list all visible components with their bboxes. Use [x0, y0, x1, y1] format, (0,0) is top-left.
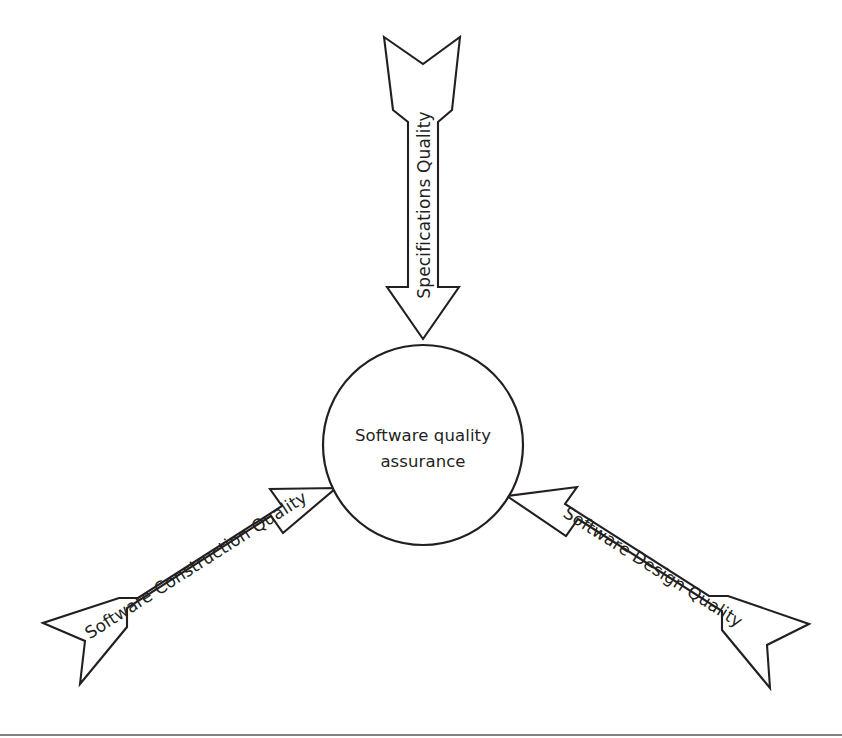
diagram-root: Specifications Quality Software Construc… — [0, 0, 842, 738]
hub-label-line-1: Software quality — [355, 426, 491, 445]
arrow-software-design-quality-label: Software Design Quality — [560, 502, 747, 631]
arrow-specifications-quality: Specifications Quality — [384, 37, 460, 339]
hub-software-quality-assurance: Software quality assurance — [323, 345, 523, 545]
hub-circle — [323, 345, 523, 545]
software-quality-assurance-diagram: Specifications Quality Software Construc… — [0, 0, 842, 738]
arrow-software-construction-quality-label: Software Construction Quality — [81, 487, 310, 643]
arrow-software-construction-quality: Software Construction Quality — [43, 487, 336, 684]
arrow-software-construction-quality-shape — [43, 488, 336, 684]
arrow-software-design-quality: Software Design Quality — [507, 487, 809, 688]
hub-label-line-2: assurance — [380, 452, 465, 471]
arrow-software-design-quality-shape — [507, 487, 809, 688]
arrow-specifications-quality-label: Specifications Quality — [414, 111, 434, 298]
